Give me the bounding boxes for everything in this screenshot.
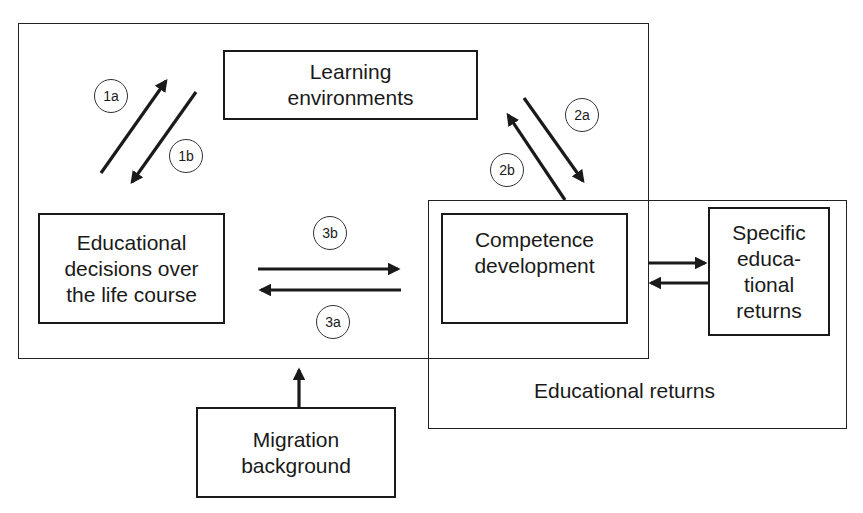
learning-environments-node: Learning environments — [223, 50, 478, 120]
educational-decisions-line-1: Educational — [77, 230, 187, 256]
badge-3a: 3a — [316, 305, 350, 339]
badge-3b: 3b — [313, 216, 347, 250]
specific-returns-line-3: tional — [744, 272, 794, 298]
badge-2b: 2b — [490, 153, 524, 187]
educational-decisions-line-3: the life course — [66, 282, 197, 308]
educational-decisions-node: Educational decisions over the life cour… — [38, 213, 225, 324]
competence-development-node: Competence development — [441, 213, 628, 324]
educational-returns-label: Educational returns — [534, 378, 715, 404]
badge-1b: 1b — [169, 139, 203, 173]
migration-background-node: Migration background — [196, 407, 396, 498]
educational-decisions-line-2: decisions over — [64, 256, 198, 282]
badge-2a: 2a — [565, 98, 599, 132]
migration-background-line-1: Migration — [253, 427, 339, 453]
competence-development-line-1: Competence — [475, 227, 594, 253]
specific-returns-line-2: educa- — [737, 246, 801, 272]
specific-returns-line-4: returns — [736, 298, 801, 324]
competence-development-line-2: development — [474, 253, 594, 279]
learning-environments-line-1: Learning — [310, 59, 392, 85]
specific-returns-node: Specific educa- tional returns — [708, 207, 830, 336]
specific-returns-line-1: Specific — [732, 220, 806, 246]
learning-environments-line-2: environments — [287, 85, 413, 111]
migration-background-line-2: background — [241, 453, 351, 479]
badge-1a: 1a — [94, 79, 128, 113]
